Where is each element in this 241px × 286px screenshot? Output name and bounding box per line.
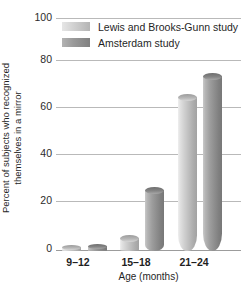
x-axis-title: Age (months) (56, 271, 241, 282)
y-tick-20: 20 (22, 195, 52, 206)
bar-lewis-21-24 (178, 97, 197, 251)
bar-lewis-15-18 (120, 238, 139, 251)
bar-chart: 100 80 60 40 20 0 Percent of subjects wh… (0, 0, 241, 286)
bar-cap (145, 187, 164, 194)
legend-swatch-icon-lewis (62, 22, 90, 31)
bar-cap (203, 73, 222, 80)
chart-legend: Lewis and Brooks-Gunn study Amsterdam st… (62, 20, 238, 52)
bar-amsterdam-15-18 (145, 190, 164, 251)
y-tick-0: 0 (22, 243, 52, 254)
y-axis-title: Percent of subjects who recognized thems… (0, 38, 24, 238)
x-tick-9-12: 9–12 (48, 256, 108, 268)
y-tick-40: 40 (22, 148, 52, 159)
gridline-100 (56, 18, 241, 19)
bar-cap (120, 235, 139, 242)
bar-amsterdam-9-12 (88, 246, 107, 251)
gridline-80 (56, 60, 241, 61)
bar-amsterdam-21-24 (203, 76, 222, 251)
legend-label-amsterdam: Amsterdam study (98, 37, 180, 49)
y-tick-60: 60 (22, 101, 52, 112)
x-tick-15-18: 15–18 (106, 256, 166, 268)
y-tick-100: 100 (22, 12, 52, 23)
y-axis-title-line-1: Percent of subjects who recognized (0, 38, 12, 238)
y-tick-80: 80 (22, 54, 52, 65)
bar-body (203, 76, 222, 251)
plot-area (56, 18, 241, 251)
legend-item-lewis: Lewis and Brooks-Gunn study (62, 20, 238, 33)
legend-swatch-icon-amsterdam (62, 38, 90, 47)
bar-lewis-9-12 (62, 247, 81, 251)
legend-item-amsterdam: Amsterdam study (62, 36, 238, 49)
y-axis-title-line-2: themselves in a mirror (12, 38, 24, 238)
bar-body (145, 190, 164, 251)
bar-body (178, 97, 197, 251)
bar-cap (178, 94, 197, 101)
bar-cap (62, 245, 81, 250)
legend-label-lewis: Lewis and Brooks-Gunn study (98, 21, 238, 33)
bar-cap (88, 244, 107, 249)
x-tick-21-24: 21–24 (164, 256, 224, 268)
